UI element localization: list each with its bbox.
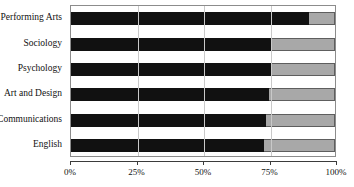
- bar-row: [71, 12, 335, 25]
- clipped-header-text: [22, 0, 222, 2]
- bar-row: [71, 63, 335, 76]
- y-axis-label: Sociology: [0, 37, 62, 50]
- bar-row: [71, 88, 335, 101]
- x-axis-tick-label: 100%: [311, 167, 354, 177]
- x-axis-tick: [203, 161, 204, 165]
- x-axis-tick-label: 25%: [112, 167, 162, 177]
- y-axis-labels: Performing ArtsSociologyPsychologyArt an…: [0, 5, 66, 157]
- x-axis-tick-label: 0%: [45, 167, 95, 177]
- y-axis-label: Art and Design: [0, 87, 62, 100]
- bar-segment-primary: [71, 12, 309, 25]
- bar-segment-primary: [71, 63, 272, 76]
- bar-segment-secondary: [266, 114, 335, 127]
- bar-segment-secondary: [309, 12, 335, 25]
- y-axis-label: Communications: [0, 113, 62, 126]
- bar-segment-secondary: [264, 139, 335, 152]
- bar-segment-secondary: [269, 88, 335, 101]
- x-axis-tick: [137, 161, 138, 165]
- plot-area: [70, 5, 336, 157]
- x-axis-tick: [336, 161, 337, 165]
- bar-segment-primary: [71, 114, 266, 127]
- bar-segment-primary: [71, 38, 272, 51]
- x-axis-tick-label: 75%: [245, 167, 295, 177]
- bar-row: [71, 139, 335, 152]
- x-axis-tick: [70, 161, 71, 165]
- bar-rows: [71, 6, 335, 156]
- gridline-50pct: [204, 6, 205, 156]
- stacked-bar-chart: Performing ArtsSociologyPsychologyArt an…: [0, 0, 354, 187]
- bar-segment-secondary: [272, 38, 335, 51]
- x-axis-tick-label: 50%: [178, 167, 228, 177]
- y-axis-label: Psychology: [0, 62, 62, 75]
- gridline-25pct: [138, 6, 139, 156]
- x-axis-tick: [270, 161, 271, 165]
- bar-segment-secondary: [272, 63, 335, 76]
- bar-segment-primary: [71, 88, 269, 101]
- bar-segment-primary: [71, 139, 264, 152]
- bar-row: [71, 114, 335, 127]
- y-axis-label: English: [0, 138, 62, 151]
- bar-row: [71, 38, 335, 51]
- y-axis-label: Performing Arts: [0, 11, 62, 24]
- gridline-75pct: [271, 6, 272, 156]
